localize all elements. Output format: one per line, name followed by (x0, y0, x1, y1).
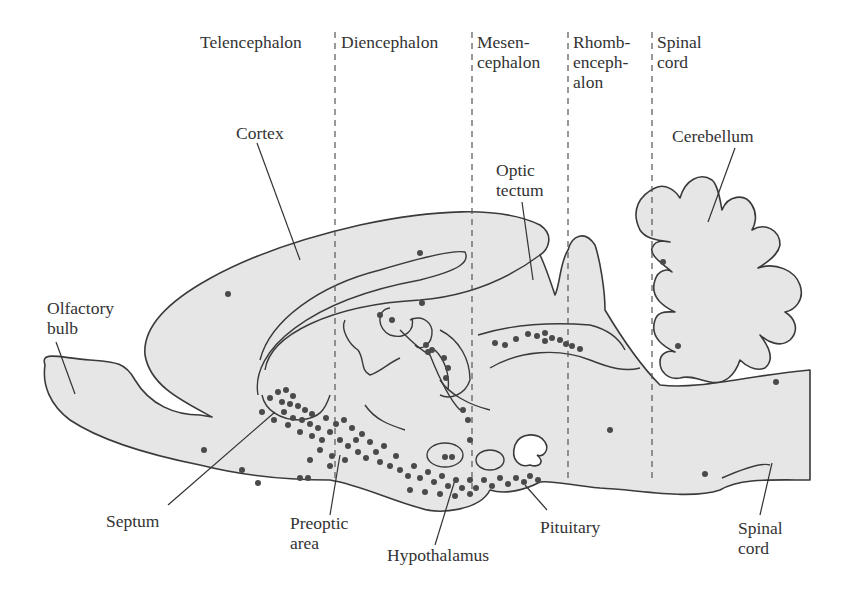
label-preoptic-area: Preoptic area (290, 513, 348, 553)
label-cerebellum: Cerebellum (672, 126, 754, 146)
label-olfactory-bulb: Olfactory bulb (47, 298, 114, 338)
brain-diagram: Telencephalon Diencephalon Mesen- cephal… (0, 0, 850, 589)
label-pituitary: Pituitary (540, 517, 600, 537)
region-diencephalon: Diencephalon (341, 32, 438, 52)
region-mesencephalon: Mesen- cephalon (477, 32, 540, 72)
region-rhombencephalon: Rhomb- enceph- alon (573, 32, 630, 92)
cerebellum-outline (636, 177, 801, 383)
label-hypothalamus: Hypothalamus (387, 545, 489, 565)
label-cortex: Cortex (236, 123, 284, 143)
label-septum: Septum (106, 511, 159, 531)
region-telencephalon: Telencephalon (200, 32, 302, 52)
label-optic-tectum: Optic tectum (496, 160, 544, 200)
label-spinal-cord: Spinal cord (738, 518, 783, 558)
region-spinal-cord: Spinal cord (657, 32, 702, 72)
brain-section-drawing (0, 0, 850, 589)
